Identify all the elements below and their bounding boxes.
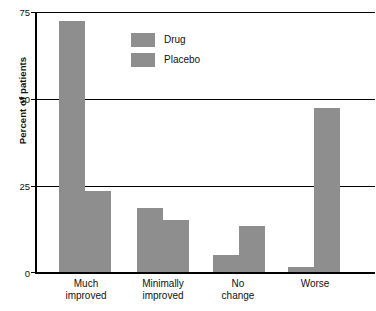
category-label-line1: Worse [301,278,330,289]
bar-placebo-no-change [239,226,265,273]
y-tick-label-50: 50 [8,95,30,105]
y-tick-label-25: 25 [8,182,30,192]
y-tick-label-0: 0 [8,269,30,279]
bar-placebo-minimally-improved [163,220,189,272]
bar-chart: Percent of patients 75 50 25 0 Drug Plac… [0,0,376,311]
category-label-worse: Worse [275,278,355,290]
bar-placebo-worse [314,108,340,273]
legend-swatch-drug [131,33,155,47]
bar-drug-minimally-improved [137,208,163,272]
bar-drug-much-improved [59,21,85,273]
category-label-much-improved: Much improved [47,278,125,302]
category-label-line1: Much [74,278,98,289]
legend-swatch-placebo [131,53,155,67]
legend-label-placebo: Placebo [164,54,200,65]
category-label-minimally-improved: Minimally improved [122,278,204,302]
category-label-line2: improved [122,290,204,302]
category-label-line2: change [198,290,278,302]
bar-drug-worse [288,267,314,273]
gridline-50 [35,99,375,100]
y-tick-label-75: 75 [8,8,30,18]
category-label-line2: improved [47,290,125,302]
category-label-line1: No [232,278,245,289]
category-label-line1: Minimally [142,278,184,289]
bar-drug-no-change [213,255,239,272]
category-label-no-change: No change [198,278,278,302]
y-axis-line [35,12,37,273]
legend-label-drug: Drug [164,34,186,45]
bar-placebo-much-improved [85,191,111,273]
gridline-75 [35,12,375,13]
